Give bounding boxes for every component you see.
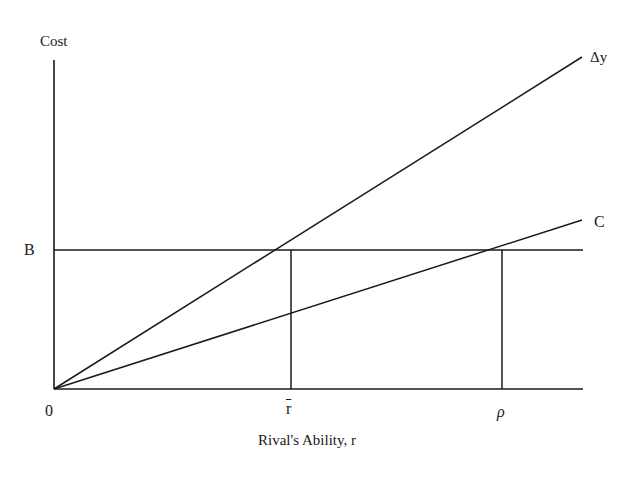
origin-label: 0: [45, 403, 53, 419]
b-tick-label: B: [24, 242, 35, 258]
c-line: [54, 220, 582, 389]
x-axis-label: Rival's Ability, r: [258, 433, 356, 448]
y-axis-label: Cost: [40, 34, 68, 49]
delta-y-line: [54, 57, 582, 389]
c-series-label: C: [594, 214, 605, 230]
delta-y-series-label: Δy: [590, 50, 607, 65]
rbar-tick-label: r: [286, 401, 291, 417]
rho-tick-label: ρ: [497, 404, 505, 420]
chart-canvas: [0, 0, 631, 477]
